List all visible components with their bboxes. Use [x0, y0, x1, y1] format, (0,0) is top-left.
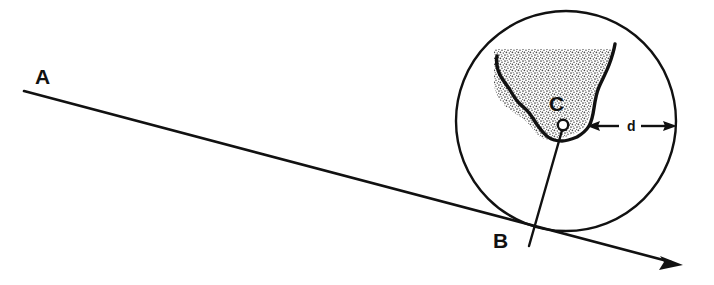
diagram-canvas: A B C d: [0, 0, 714, 285]
label-point-a: A: [35, 65, 50, 88]
site-marker: [558, 120, 568, 130]
label-distance-d: d: [627, 118, 636, 134]
label-region-c: C: [549, 92, 564, 115]
diagram-svg: A B C d: [0, 0, 714, 285]
label-point-b: B: [493, 229, 508, 252]
trajectory-arrowhead-icon: [659, 256, 683, 270]
